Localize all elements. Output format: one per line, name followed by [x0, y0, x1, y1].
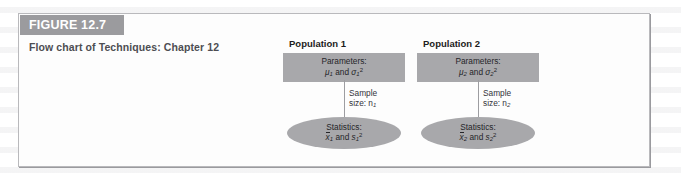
parameters-values-2: μ2 and σ22: [459, 67, 497, 78]
statistics-values-2: x2 and s22: [460, 132, 497, 143]
statistics-values-1: x1 and s12: [326, 132, 363, 143]
sample-size-label-2: Sample size: n2: [483, 88, 511, 110]
figure-panel: FIGURE 12.7 Flow chart of Techniques: Ch…: [18, 13, 650, 167]
sample-word-1: Sample: [349, 88, 377, 98]
sample-size-label-1: Sample size: n1: [349, 88, 377, 110]
connector-line-2: [478, 80, 479, 120]
parameters-box-2: Parameters: μ2 and σ22: [417, 53, 539, 82]
population-group-2: Population 2 Parameters: μ2 and σ22 Samp…: [417, 38, 567, 82]
sample-word-2: Sample: [483, 88, 511, 98]
population-2-title: Population 2: [423, 38, 567, 49]
flow-chart-diagram: Population 1 Parameters: μ1 and σ12 Samp…: [19, 14, 651, 168]
sample-size-value-2: size: n2: [483, 98, 511, 110]
connector-line-1: [344, 80, 345, 120]
parameters-values-1: μ1 and σ12: [325, 67, 363, 78]
sample-size-value-1: size: n1: [349, 98, 377, 110]
population-group-1: Population 1 Parameters: μ1 and σ12 Samp…: [283, 38, 433, 82]
statistics-ellipse-2: Statistics: x2 and s22: [421, 117, 535, 149]
population-1-title: Population 1: [289, 38, 433, 49]
statistics-ellipse-1: Statistics: x1 and s12: [287, 117, 401, 149]
parameters-box-1: Parameters: μ1 and σ12: [283, 53, 405, 82]
